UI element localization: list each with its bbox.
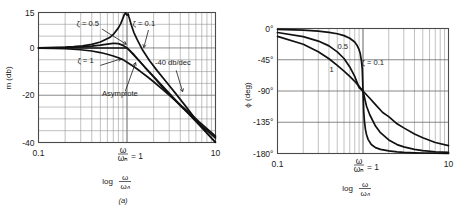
annotation-phase-bode-1: 1 xyxy=(330,65,334,74)
xlabel-numerator-phase-bode: ω xyxy=(362,180,368,189)
xtick-frac-denominator-magnitude-bode: ωₙ xyxy=(118,153,129,163)
xlabel-denominator-phase-bode: ωₙ xyxy=(360,189,369,198)
xlabel-numerator-magnitude-bode: ω xyxy=(122,173,128,182)
annotation-magnitude-bode-0: ζ = 0.5 xyxy=(76,19,99,28)
ylabel-phase-bode: ϕ (deg) xyxy=(243,82,252,108)
xlabel-log-magnitude-bode: log xyxy=(102,177,113,186)
annotation-magnitude-bode-1: ζ = 0.1 xyxy=(133,19,156,28)
leader-zeta-05-line xyxy=(102,29,126,44)
phase-bode-group: 0°-45°-90°-135°-180°0.110ωωₙ= 1ϕ (deg)lo… xyxy=(243,24,453,198)
xlabel-log-phase-bode: log xyxy=(342,184,353,193)
leader-zeta-1 xyxy=(100,58,121,65)
xtick-label-phase-bode-2: 10 xyxy=(444,159,454,169)
ytick-label-phase-bode-3: -135° xyxy=(253,117,273,127)
xtick-frac-equals-phase-bode: = 1 xyxy=(367,162,379,172)
ytick-label-phase-bode-4: -180° xyxy=(253,149,273,159)
figure-canvas: 150-20-400.110ωωₙ= 1m (db)logωωₙζ = 0.5ζ… xyxy=(0,0,469,213)
xtick-label-magnitude-bode-1: ωωₙ= 1 xyxy=(118,145,144,164)
ytick-label-magnitude-bode-3: -40 xyxy=(22,138,35,148)
figure-caption-a: (a) xyxy=(118,196,128,205)
leader-slope xyxy=(176,70,183,91)
xtick-label-magnitude-bode-0: 0.1 xyxy=(33,148,45,158)
ytick-label-phase-bode-2: -90° xyxy=(258,86,274,96)
bode-plot-figure: 150-20-400.110ωωₙ= 1m (db)logωωₙζ = 0.5ζ… xyxy=(0,0,469,213)
magnitude-bode-gridlines xyxy=(39,13,216,143)
ytick-label-magnitude-bode-2: -20 xyxy=(22,90,35,100)
leader-zeta-05 xyxy=(102,29,126,44)
ytick-label-phase-bode-1: -45° xyxy=(258,55,274,65)
xlabel-phase-bode: logωωₙ xyxy=(342,180,371,198)
leader-zeta-01 xyxy=(143,30,149,48)
xlabel-denominator-magnitude-bode: ωₙ xyxy=(120,182,129,191)
xtick-label-magnitude-bode-2: 10 xyxy=(211,148,221,158)
annotation-magnitude-bode-2: ζ = 1 xyxy=(77,56,93,65)
annotation-magnitude-bode-4: -40 db/dec xyxy=(155,58,191,67)
leader-slope-line xyxy=(176,70,182,91)
ytick-label-phase-bode-0: 0° xyxy=(265,24,273,34)
xtick-label-phase-bode-1: ωωₙ= 1 xyxy=(354,156,380,175)
xtick-frac-equals-magnitude-bode: = 1 xyxy=(131,151,143,161)
ytick-label-magnitude-bode-1: 0 xyxy=(30,43,35,53)
xlabel-magnitude-bode: logωωₙ xyxy=(102,173,131,191)
annotation-phase-bode-0: 0.5 xyxy=(337,42,348,51)
xtick-frac-denominator-phase-bode: ωₙ xyxy=(354,164,365,174)
annotation-magnitude-bode-3: Asymptote xyxy=(102,89,138,98)
magnitude-bode-group: 150-20-400.110ωωₙ= 1m (db)logωωₙζ = 0.5ζ… xyxy=(4,8,220,191)
annotation-phase-bode-2: ζ = 0.1 xyxy=(361,58,384,67)
leader-zeta-01-line xyxy=(144,30,149,48)
xtick-label-phase-bode-0: 0.1 xyxy=(272,159,284,169)
ytick-label-magnitude-bode-0: 15 xyxy=(25,8,35,18)
ylabel-magnitude-bode: m (db) xyxy=(4,66,13,89)
